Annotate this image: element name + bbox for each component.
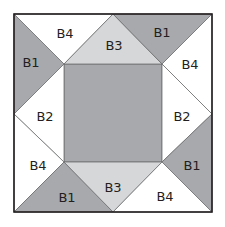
label-mid-right: B2	[173, 109, 190, 124]
label-top-mid: B3	[105, 38, 122, 53]
label-top-left-left: B1	[22, 55, 39, 70]
label-top-left-top: B4	[56, 26, 73, 41]
label-bottom-right-bottom: B4	[156, 189, 173, 204]
label-bottom-right-right: B1	[183, 158, 200, 173]
label-mid-left: B2	[36, 109, 53, 124]
label-bottom-left-bottom: B1	[58, 190, 75, 205]
label-bottom-mid: B3	[104, 180, 121, 195]
center-square	[64, 64, 162, 162]
label-bottom-left-left: B4	[29, 158, 46, 173]
label-top-right-right: B4	[181, 57, 198, 72]
quilt-block-diagram: B1 B4 B3 B1 B4 B2 B2 B4 B1 B3 B1 B4	[0, 0, 225, 227]
label-top-right-top: B1	[153, 25, 170, 40]
